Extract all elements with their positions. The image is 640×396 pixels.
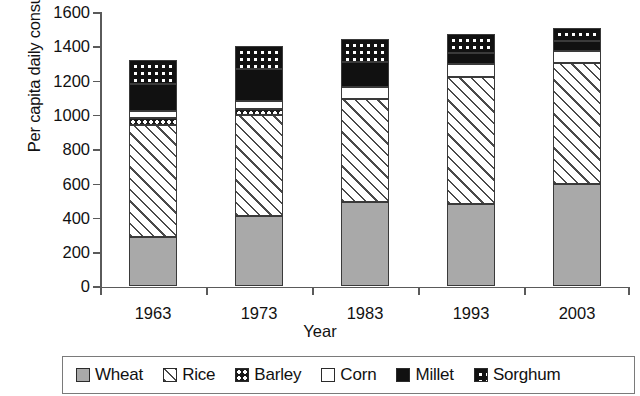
y-tick-1200 <box>93 81 100 83</box>
segment-rice-1993[interactable] <box>447 77 495 204</box>
segment-corn-2003[interactable] <box>553 51 601 63</box>
y-tick-1600 <box>93 12 100 14</box>
segment-wheat-1963[interactable] <box>129 237 177 287</box>
x-tick-label-1973: 1973 <box>214 304 304 323</box>
segment-millet-1973[interactable] <box>235 69 283 102</box>
x-tick-label-1993: 1993 <box>426 304 516 323</box>
segment-corn-1973[interactable] <box>235 101 283 109</box>
y-tick-200 <box>93 252 100 254</box>
segment-sorghum-2003[interactable] <box>553 28 601 41</box>
segment-wheat-1993[interactable] <box>447 204 495 286</box>
segment-corn-1993[interactable] <box>447 64 495 77</box>
segment-sorghum-1973[interactable] <box>235 46 283 68</box>
segment-wheat-2003[interactable] <box>553 184 601 287</box>
bar-1993[interactable] <box>447 34 495 286</box>
y-tick-label-0: 0 <box>28 278 90 295</box>
segment-millet-1963[interactable] <box>129 84 177 111</box>
white-square-swatch <box>321 368 335 382</box>
segment-corn-1983[interactable] <box>341 87 389 99</box>
x-tick-1963 <box>100 287 102 295</box>
segment-barley-1963[interactable] <box>129 118 177 125</box>
y-tick-label-1200: 1200 <box>28 73 90 90</box>
y-tick-label-1000: 1000 <box>28 107 90 124</box>
gray-square-swatch <box>76 368 90 382</box>
y-tick-1000 <box>93 115 100 117</box>
segment-sorghum-1983[interactable] <box>341 39 389 61</box>
segment-rice-1973[interactable] <box>235 115 283 216</box>
legend-label-rice: Rice <box>182 365 215 385</box>
y-tick-label-200: 200 <box>28 244 90 261</box>
chart-legend: WheatRiceBarleyCornMilletSorghum <box>62 356 635 394</box>
segment-barley-1973[interactable] <box>235 109 283 115</box>
x-tick-label-1983: 1983 <box>320 304 410 323</box>
y-tick-label-1600: 1600 <box>28 4 90 21</box>
bar-1983[interactable] <box>341 39 389 286</box>
segment-wheat-1973[interactable] <box>235 216 283 286</box>
legend-item-corn[interactable]: Corn <box>321 365 376 385</box>
y-tick-800 <box>93 149 100 151</box>
y-tick-label-600: 600 <box>28 176 90 193</box>
segment-millet-2003[interactable] <box>553 41 601 50</box>
legend-label-wheat: Wheat <box>95 365 143 385</box>
legend-label-millet: Millet <box>415 365 453 385</box>
y-tick-400 <box>93 218 100 220</box>
legend-item-wheat[interactable]: Wheat <box>76 365 143 385</box>
segment-sorghum-1993[interactable] <box>447 34 495 53</box>
bar-2003[interactable] <box>553 28 601 286</box>
x-tick-2003 <box>524 287 526 295</box>
segment-sorghum-1963[interactable] <box>129 60 177 84</box>
legend-item-barley[interactable]: Barley <box>235 365 301 385</box>
x-tick-label-1963: 1963 <box>108 304 198 323</box>
segment-rice-1963[interactable] <box>129 125 177 236</box>
legend-label-barley: Barley <box>254 365 301 385</box>
x-tick-1973 <box>206 287 208 295</box>
x-tick-1983 <box>312 287 314 295</box>
segment-millet-1993[interactable] <box>447 53 495 64</box>
segment-wheat-1983[interactable] <box>341 202 389 286</box>
legend-item-rice[interactable]: Rice <box>163 365 215 385</box>
hatched-square-swatch <box>163 368 177 382</box>
y-tick-600 <box>93 184 100 186</box>
stacked-bar-chart: Per capita daily consumption 02004006008… <box>0 0 640 396</box>
segment-millet-1983[interactable] <box>341 62 389 88</box>
y-tick-label-1400: 1400 <box>28 38 90 55</box>
dotted-black-square-swatch <box>474 368 488 382</box>
segment-corn-1963[interactable] <box>129 111 177 118</box>
checkered-square-swatch <box>235 368 249 382</box>
legend-item-millet[interactable]: Millet <box>396 365 453 385</box>
bar-1963[interactable] <box>129 60 177 286</box>
black-square-swatch <box>396 368 410 382</box>
legend-label-sorghum: Sorghum <box>493 365 561 385</box>
legend-item-sorghum[interactable]: Sorghum <box>474 365 561 385</box>
segment-rice-2003[interactable] <box>553 63 601 184</box>
x-tick-1993 <box>418 287 420 295</box>
x-tick-end <box>628 287 630 295</box>
y-axis-line <box>100 12 102 288</box>
y-tick-label-400: 400 <box>28 210 90 227</box>
y-tick-0 <box>93 286 100 288</box>
y-tick-1400 <box>93 46 100 48</box>
x-tick-label-2003: 2003 <box>532 304 622 323</box>
x-axis-line <box>100 287 630 289</box>
plot-area: 02004006008001000120014001600 1963197319… <box>100 12 630 288</box>
segment-rice-1983[interactable] <box>341 99 389 202</box>
legend-label-corn: Corn <box>340 365 376 385</box>
bar-1973[interactable] <box>235 46 283 286</box>
y-tick-label-800: 800 <box>28 141 90 158</box>
x-axis-title: Year <box>0 322 640 341</box>
